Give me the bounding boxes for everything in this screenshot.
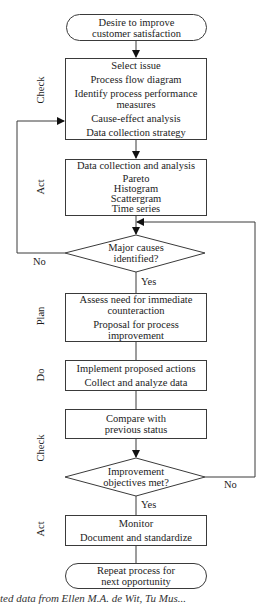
act-box-data-collection: Data collection and analysis Pareto Hist… bbox=[65, 159, 207, 216]
step-text: Implement proposed actions bbox=[77, 363, 196, 374]
step-text: Process flow diagram bbox=[91, 74, 182, 85]
start-terminal: Desire to improve customer satisfaction bbox=[66, 14, 207, 41]
step-text: improvement bbox=[108, 330, 164, 341]
step-text: Data collection and analysis bbox=[77, 161, 195, 171]
step-text: counteraction bbox=[107, 305, 164, 316]
edge-label-no: No bbox=[33, 256, 46, 267]
decision-line: objectives met? bbox=[86, 477, 186, 488]
decision-line: identified? bbox=[86, 253, 186, 264]
step-text: Collect and analyze data bbox=[85, 377, 188, 388]
phase-label-act: Act bbox=[35, 179, 46, 194]
step-text: Document and standardize bbox=[80, 532, 192, 543]
step-text: Identify process performance bbox=[74, 88, 197, 99]
start-line-2: customer satisfaction bbox=[92, 28, 181, 39]
step-text: Monitor bbox=[119, 518, 153, 529]
compare-box: Compare with previous status bbox=[65, 409, 207, 439]
end-terminal: Repeat process for next opportunity bbox=[65, 563, 207, 589]
do-box: Implement proposed actions Collect and a… bbox=[65, 360, 207, 391]
act-box-monitor: Monitor Document and standardize bbox=[65, 515, 207, 546]
step-text: Compare with bbox=[106, 413, 166, 424]
decision-1-text: Major causes identified? bbox=[86, 242, 186, 264]
start-line-1: Desire to improve bbox=[99, 17, 175, 28]
decision-line: Major causes bbox=[86, 242, 186, 253]
phase-label-check: Check bbox=[35, 435, 46, 462]
end-line-2: next opportunity bbox=[101, 576, 171, 587]
edge-label-yes: Yes bbox=[141, 276, 156, 287]
end-line-1: Repeat process for bbox=[97, 565, 175, 576]
plan-box: Assess need for immediate counteraction … bbox=[65, 293, 207, 342]
check-box-select-issue: Select issue Process flow diagram Identi… bbox=[65, 58, 207, 140]
step-text: Select issue bbox=[111, 60, 160, 71]
figure-caption: ted data from Ellen M.A. de Wit, Tu Mus.… bbox=[0, 592, 266, 604]
step-text: Assess need for immediate bbox=[80, 294, 193, 305]
phase-label-act: Act bbox=[35, 521, 46, 536]
phase-label-do: Do bbox=[35, 369, 46, 382]
step-text: Data collection strategy bbox=[86, 127, 186, 138]
edge-label-yes: Yes bbox=[141, 499, 156, 510]
phase-label-check: Check bbox=[35, 77, 46, 104]
step-text: Time series bbox=[112, 204, 160, 214]
step-text: previous status bbox=[105, 424, 168, 435]
edge-label-no: No bbox=[224, 479, 237, 490]
phase-label-plan: Plan bbox=[35, 307, 46, 326]
step-text: measures bbox=[116, 99, 155, 110]
step-text: Cause-effect analysis bbox=[91, 113, 180, 124]
step-text: Proposal for process bbox=[93, 319, 179, 330]
decision-line: Improvement bbox=[86, 466, 186, 477]
decision-2-text: Improvement objectives met? bbox=[86, 466, 186, 488]
